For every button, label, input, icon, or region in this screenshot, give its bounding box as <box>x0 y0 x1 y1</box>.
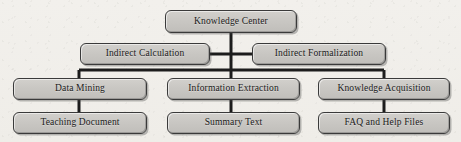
knowledge-center-diagram: Knowledge Center Indirect Calculation In… <box>0 0 461 142</box>
node-information-extraction[interactable]: Information Extraction <box>167 78 300 100</box>
node-indirect-formalization[interactable]: Indirect Formalization <box>252 43 386 65</box>
node-knowledge-center-label: Knowledge Center <box>194 17 268 27</box>
node-data-mining[interactable]: Data Mining <box>13 78 147 100</box>
node-knowledge-acquisition[interactable]: Knowledge Acquisition <box>318 78 450 100</box>
node-knowledge-acquisition-label: Knowledge Acquisition <box>337 84 430 94</box>
node-summary-text-label: Summary Text <box>205 118 263 128</box>
node-faq-help-files[interactable]: FAQ and Help Files <box>318 112 450 134</box>
node-information-extraction-label: Information Extraction <box>188 84 279 94</box>
node-teaching-document[interactable]: Teaching Document <box>13 112 147 134</box>
node-indirect-calculation[interactable]: Indirect Calculation <box>80 43 210 65</box>
node-indirect-calculation-label: Indirect Calculation <box>106 49 185 59</box>
node-faq-help-files-label: FAQ and Help Files <box>345 118 424 128</box>
node-summary-text[interactable]: Summary Text <box>167 112 300 134</box>
node-knowledge-center[interactable]: Knowledge Center <box>165 10 297 33</box>
node-teaching-document-label: Teaching Document <box>40 118 119 128</box>
node-indirect-formalization-label: Indirect Formalization <box>275 49 364 59</box>
node-data-mining-label: Data Mining <box>55 84 105 94</box>
